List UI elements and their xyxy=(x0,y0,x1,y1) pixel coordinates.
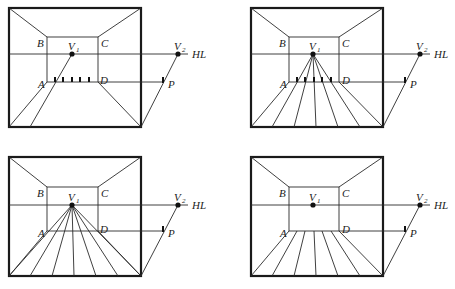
label-c: C xyxy=(342,37,350,49)
label-v2-sub: 2 xyxy=(182,197,186,205)
label-d: D xyxy=(99,223,108,235)
label-v1-sub: 1 xyxy=(76,197,80,205)
label-a: A xyxy=(279,78,287,90)
label-v: V xyxy=(174,191,182,203)
outer-frame xyxy=(9,8,141,127)
panel-bottom-left: B C A D P V 1 V 2 HL xyxy=(9,157,206,276)
label-b: B xyxy=(279,37,286,49)
label-v1-sub: 1 xyxy=(76,46,80,54)
label-a: A xyxy=(279,227,287,239)
vanishing-point-v2 xyxy=(175,51,180,56)
label-hl: HL xyxy=(191,199,206,211)
vanishing-point-v1 xyxy=(310,202,315,207)
label-b: B xyxy=(279,187,286,199)
label-p: P xyxy=(167,78,175,90)
edge-line xyxy=(9,8,47,37)
outer-frame xyxy=(251,8,383,127)
label-c: C xyxy=(101,37,109,49)
diagonal-to-v2 xyxy=(141,205,178,276)
label-d: D xyxy=(341,74,350,86)
edge-line xyxy=(98,8,141,37)
diagonal-to-v2 xyxy=(141,54,178,127)
edge-line xyxy=(98,82,141,127)
label-hl: HL xyxy=(433,199,448,211)
label-d: D xyxy=(341,223,350,235)
label-p: P xyxy=(167,227,175,239)
line-from-v1 xyxy=(30,54,72,127)
label-v: V xyxy=(416,40,424,52)
vanishing-point-v1 xyxy=(310,51,315,56)
label-c: C xyxy=(342,187,350,199)
label-c: C xyxy=(101,187,109,199)
panel-bottom-right: B C A D P V 1 V 2 HL xyxy=(251,157,448,276)
outer-frame xyxy=(251,157,383,276)
label-v: V xyxy=(416,191,424,203)
label-v: V xyxy=(68,191,76,203)
label-p: P xyxy=(409,78,417,90)
vanishing-point-v1 xyxy=(69,202,74,207)
label-p: P xyxy=(409,227,417,239)
fan-lines xyxy=(9,205,141,276)
label-hl: HL xyxy=(433,48,448,60)
label-v: V xyxy=(174,40,182,52)
vanishing-point-v2 xyxy=(417,202,422,207)
label-b: B xyxy=(37,37,44,49)
label-hl: HL xyxy=(191,48,206,60)
label-v: V xyxy=(68,40,76,52)
label-v2-sub: 2 xyxy=(182,46,186,54)
perspective-diagram: B C A D P V 1 V 2 HL xyxy=(0,0,455,289)
diagonal-to-v2 xyxy=(383,54,420,127)
panel-top-right: B C A D P V 1 V 2 HL xyxy=(251,8,448,127)
label-b: B xyxy=(37,187,44,199)
vanishing-point-v1 xyxy=(69,51,74,56)
vanishing-point-v2 xyxy=(417,51,422,56)
label-v: V xyxy=(309,191,317,203)
label-v2-sub: 2 xyxy=(424,46,428,54)
label-v1-sub: 1 xyxy=(317,46,321,54)
label-a: A xyxy=(37,78,45,90)
label-d: D xyxy=(99,74,108,86)
diagonal-to-v2 xyxy=(383,205,420,276)
label-v2-sub: 2 xyxy=(424,197,428,205)
label-v: V xyxy=(309,40,317,52)
vanishing-point-v2 xyxy=(175,202,180,207)
label-v1-sub: 1 xyxy=(317,197,321,205)
panel-top-left: B C A D P V 1 V 2 HL xyxy=(9,8,206,127)
outer-frame xyxy=(9,157,141,276)
label-a: A xyxy=(37,227,45,239)
